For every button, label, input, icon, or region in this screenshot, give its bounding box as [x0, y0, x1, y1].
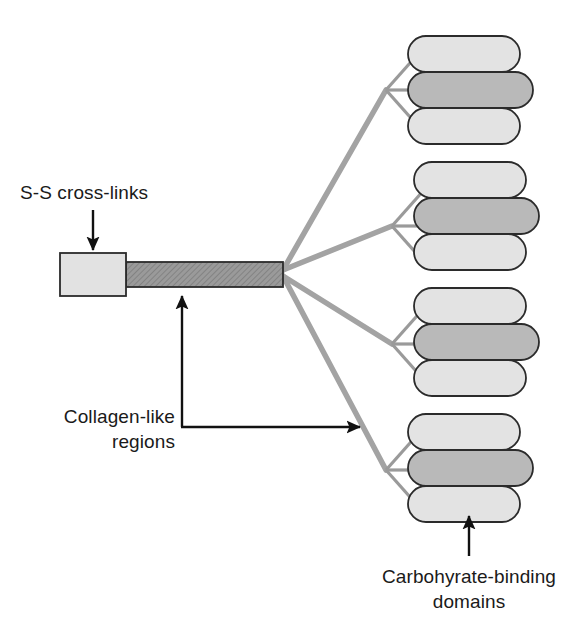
- cbd-capsule-dark-middle: [408, 450, 533, 486]
- cbd-capsule-dark-middle: [414, 198, 539, 234]
- cbd-capsule-light-top: [414, 288, 526, 324]
- diagram-canvas: S-S cross-links Collagen-like regions Ca…: [0, 0, 587, 622]
- cbd-cluster-2: [392, 162, 539, 270]
- carbohydrate-domains-label-line1: Carbohyrate-binding: [382, 566, 556, 587]
- cbd-capsule-light-bottom: [408, 486, 520, 522]
- ss-crosslinks-box: [60, 253, 126, 296]
- cbd-cluster-4: [386, 414, 533, 522]
- carbohydrate-domains-label-line2: domains: [433, 591, 506, 612]
- collagen-like-bar: [126, 262, 283, 287]
- branch-line-2: [283, 226, 392, 270]
- collagen-regions-elbow-arrow: [181, 296, 360, 427]
- cbd-capsule-light-bottom: [408, 108, 520, 144]
- branch-line-group: [283, 90, 392, 470]
- collagen-regions-label-line1: Collagen-like: [64, 406, 175, 427]
- cbd-cluster-3: [392, 288, 539, 396]
- branch-line-1: [283, 90, 386, 270]
- cbd-capsule-light-bottom: [414, 234, 526, 270]
- cbd-capsule-light-top: [408, 36, 520, 72]
- cbd-capsule-dark-middle: [408, 72, 533, 108]
- collectin-structure-diagram: S-S cross-links Collagen-like regions Ca…: [0, 0, 587, 622]
- cbd-cluster-1: [386, 36, 533, 144]
- ss-crosslinks-label: S-S cross-links: [20, 182, 148, 203]
- collagen-regions-label-line2: regions: [112, 431, 175, 452]
- cbd-capsule-dark-middle: [414, 324, 539, 360]
- cbd-capsule-light-top: [408, 414, 520, 450]
- cbd-capsule-light-bottom: [414, 360, 526, 396]
- cbd-capsule-light-top: [414, 162, 526, 198]
